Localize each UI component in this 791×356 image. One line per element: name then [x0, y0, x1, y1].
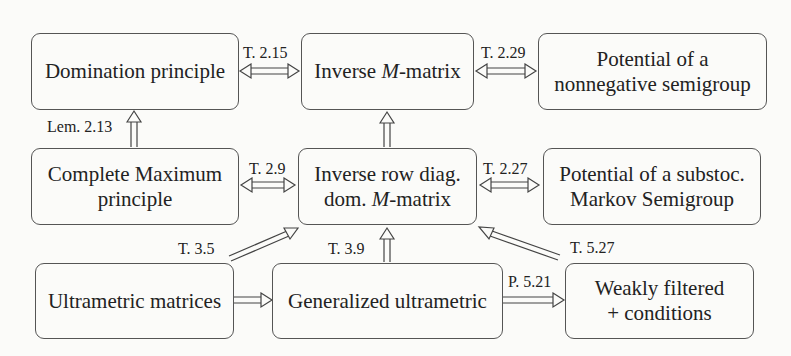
node-generalized-ultrametric: Generalized ultrametric — [272, 263, 503, 339]
arrow-ultra-gen — [234, 293, 272, 307]
edge-label-weak-invrow: T. 5.27 — [570, 239, 615, 257]
arrow-weak-invrow — [479, 227, 560, 260]
edge-label-invrow-potsub: T. 2.27 — [483, 160, 528, 178]
arrow-invm-potnn — [476, 64, 536, 78]
node-inverse-row-diag-dom-m-matrix: Inverse row diag. dom. M-matrix — [298, 148, 477, 225]
arrow-gen-invrow — [380, 228, 394, 262]
arrow-gen-weak — [503, 293, 564, 307]
node-complete-maximum-principle: Complete Maximum principle — [31, 148, 239, 225]
arrow-invrow-potsub — [480, 178, 539, 192]
edge-label-gen-weak: P. 5.21 — [508, 273, 551, 291]
node-weakly-filtered-conditions: Weakly filtered + conditions — [565, 263, 754, 339]
node-potential-nonnegative-semigroup: Potential of a nonnegative semigroup — [538, 33, 767, 110]
edge-label-cmp-invrow: T. 2.9 — [249, 160, 286, 178]
arrow-invrow-invm — [380, 112, 394, 147]
edge-label-gen-invrow: T. 3.9 — [328, 240, 365, 258]
arrow-ultra-invrow — [229, 228, 298, 261]
node-ultrametric-matrices: Ultrametric matrices — [35, 263, 234, 339]
arrow-dom-invm — [240, 64, 299, 78]
node-potential-substoc-markov-semigroup: Potential of a substoc. Markov Semigroup — [543, 148, 761, 225]
edge-label-dom-invm: T. 2.15 — [243, 44, 288, 62]
node-domination-principle: Domination principle — [31, 33, 239, 110]
arrow-cmp-invrow — [241, 178, 295, 192]
node-inverse-m-matrix: Inverse M-matrix — [301, 33, 474, 110]
edge-label-ultra-invrow: T. 3.5 — [178, 240, 215, 258]
edge-label-invm-potnn: T. 2.29 — [481, 44, 526, 62]
edge-label-cmp-dom: Lem. 2.13 — [47, 118, 112, 136]
arrow-cmp-dom — [127, 111, 141, 147]
